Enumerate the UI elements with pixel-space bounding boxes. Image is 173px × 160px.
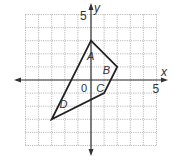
x-axis-left-arrow-icon: [14, 78, 21, 83]
y-axis-label: y: [93, 1, 101, 15]
region-label-a: A: [86, 50, 94, 62]
y-axis-down-arrow-icon: [89, 149, 94, 156]
region-label-c: C: [96, 82, 104, 94]
axes: [14, 3, 168, 156]
region-label-b: B: [103, 64, 110, 76]
region-label-d: D: [59, 98, 67, 110]
y-axis-up-arrow-icon: [89, 3, 94, 10]
coordinate-plane-figure: 5yx50ABCD x y: [0, 0, 173, 160]
coordinate-plane: 5yx50ABCD: [0, 0, 173, 160]
y-tick-label-5: 5: [80, 9, 87, 23]
x-tick-label-5: 5: [153, 82, 160, 96]
x-axis-label: x: [160, 65, 168, 79]
origin-label: 0: [81, 82, 87, 94]
